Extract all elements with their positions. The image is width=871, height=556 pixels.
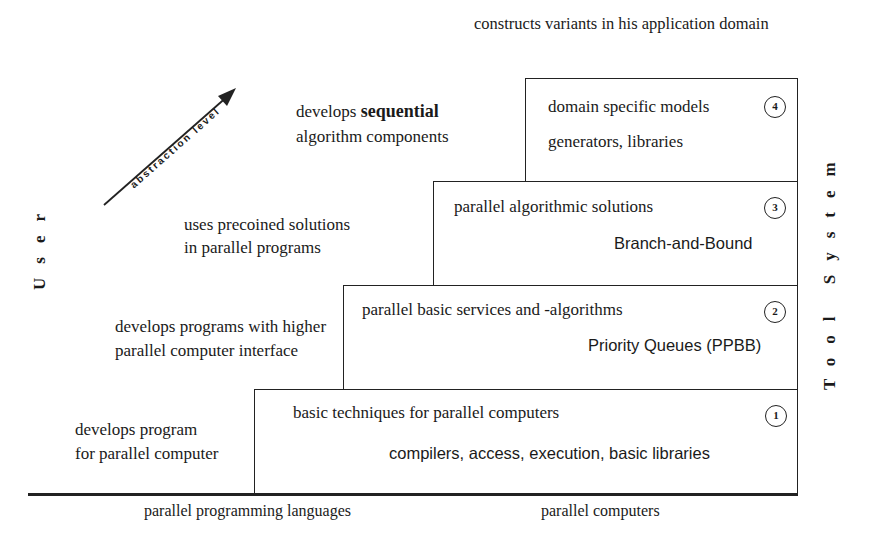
user-annotation-level-2-line2: parallel computer interface [115,341,298,361]
level-3-box: parallel algorithmic solutions Branch-an… [433,181,798,287]
level-2-title: parallel basic services and -algorithms [362,300,623,320]
user-annotation-level-4-line2: algorithm components [296,127,449,147]
baseline [28,493,798,496]
level-2-number-badge: 2 [764,301,786,323]
level-3-title: parallel algorithmic solutions [454,197,653,217]
level-4-title: domain specific models [548,97,709,117]
level-4-box: domain specific models generators, libra… [525,78,798,183]
user-annotation-level-1-line1: develops program [75,420,197,440]
user-annotation-level-4-prefix: develops [296,102,356,121]
layered-tool-system-diagram: constructs variants in his application d… [0,0,871,556]
user-annotation-level-4-bold: sequential [361,101,439,121]
level-2-example: Priority Queues (PPBB) [588,336,761,355]
level-3-number-badge: 3 [764,197,786,219]
user-annotation-level-2-line1: develops programs with higher [115,317,326,337]
user-annotation-level-1-line2: for parallel computer [75,444,219,464]
base-label-computers: parallel computers [541,502,660,520]
level-1-number-badge: 1 [765,405,787,427]
user-annotation-level-3-line1: uses precoined solutions [184,215,350,235]
level-1-box: basic techniques for parallel computers … [254,389,798,496]
user-side-label: User [30,200,50,290]
level-2-box: parallel basic services and -algorithms … [343,285,798,391]
user-annotation-level-3-line2: in parallel programs [184,238,321,258]
level-1-title: basic techniques for parallel computers [293,403,559,423]
base-label-languages: parallel programming languages [144,502,351,520]
level-4-example: generators, libraries [548,132,683,152]
user-annotation-level-4: develops sequential [296,101,439,122]
level-1-example: compilers, access, execution, basic libr… [389,444,710,463]
level-4-number-badge: 4 [764,96,786,118]
level-3-example: Branch-and-Bound [614,234,753,253]
tool-system-side-label: Tool System [820,148,840,390]
